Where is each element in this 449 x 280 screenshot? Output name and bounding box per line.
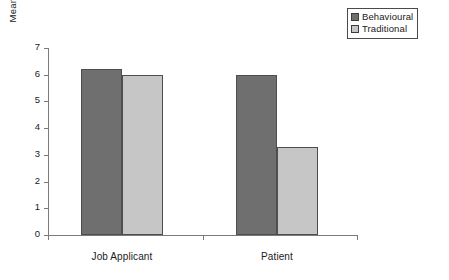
legend-swatch-behavioural-icon [351, 13, 359, 21]
y-axis-tick: 2 [44, 182, 48, 183]
y-axis-tick: 6 [44, 75, 48, 76]
y-axis-tick: 5 [44, 101, 48, 102]
chart-legend: Behavioural Traditional [347, 8, 418, 39]
y-axis-tick-label: 7 [35, 41, 40, 53]
x-axis-tick [357, 236, 358, 240]
y-axis-tick-label: 4 [35, 121, 40, 133]
x-axis-tick [48, 236, 49, 240]
y-axis-tick-label: 2 [35, 175, 40, 187]
legend-label-behavioural: Behavioural [362, 11, 413, 23]
y-axis-tick-label: 1 [35, 201, 40, 213]
bar-chart-figure: Behavioural Traditional Mean Adjustment … [0, 0, 449, 280]
x-axis-category-label: Job Applicant [62, 251, 182, 263]
x-axis-tick [203, 236, 204, 240]
y-axis-tick: 7 [44, 48, 48, 49]
y-axis-line [48, 48, 49, 236]
y-axis-tick-label: 6 [35, 68, 40, 80]
legend-label-traditional: Traditional [362, 23, 407, 35]
y-axis-tick: 1 [44, 208, 48, 209]
bar-behavioural-job-applicant [81, 69, 122, 235]
legend-swatch-traditional-icon [351, 25, 359, 33]
bar-traditional-patient [277, 147, 318, 235]
y-axis-tick-label: 3 [35, 148, 40, 160]
plot-area: 01234567 Job ApplicantPatient [48, 48, 358, 235]
y-axis-tick: 4 [44, 128, 48, 129]
x-axis-category-label: Patient [217, 251, 337, 263]
y-axis-tick-label: 5 [35, 94, 40, 106]
bar-behavioural-patient [236, 75, 277, 235]
bar-traditional-job-applicant [122, 75, 163, 235]
y-axis-tick-label: 0 [35, 228, 40, 240]
legend-item-behavioural: Behavioural [351, 11, 413, 23]
legend-item-traditional: Traditional [351, 23, 413, 35]
y-axis-title: Mean Adjustment Rating [6, 0, 20, 62]
y-axis-tick: 3 [44, 155, 48, 156]
